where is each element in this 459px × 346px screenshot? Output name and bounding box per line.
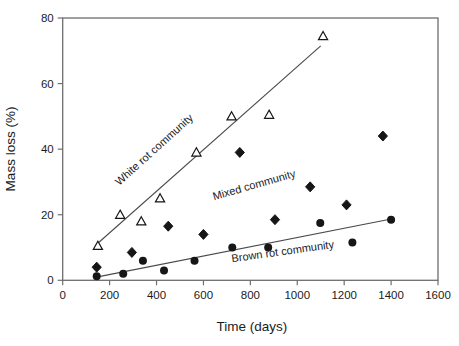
data-point-white-rot-community [137,217,146,225]
data-point-brown-rot-community [191,257,199,265]
data-point-brown-rot-community [160,266,168,274]
data-point-white-rot-community [155,194,164,202]
data-point-mixed-community [199,229,208,239]
data-point-brown-rot-community [119,270,127,278]
x-tick-label: 1200 [331,289,357,301]
y-tick-label: 20 [41,209,54,221]
scatter-plot-canvas: 02004006008001000120014001600020406080Wh… [0,0,459,346]
data-point-white-rot-community [227,112,236,120]
trendline-white-rot-community [97,46,321,244]
y-axis-label: Mass loss (%) [3,107,18,192]
plot-area: 02004006008001000120014001600020406080Wh… [41,12,451,301]
series-label-white-rot-community: White rot community [113,111,196,187]
data-point-white-rot-community [318,31,327,39]
data-point-mixed-community [270,215,279,225]
x-axis-label: Time (days) [217,319,288,334]
x-tick-label: 800 [241,289,260,301]
data-point-mixed-community [127,247,136,257]
x-tick-label: 1400 [378,289,404,301]
y-tick-label: 40 [41,143,54,155]
scatter-plot-figure: 02004006008001000120014001600020406080Wh… [0,0,459,346]
data-point-mixed-community [378,131,387,141]
x-tick-label: 400 [147,289,166,301]
data-point-brown-rot-community [228,244,236,252]
data-point-white-rot-community [116,210,125,218]
series-label-brown-rot-community: Brown rot community [231,238,335,264]
data-point-white-rot-community [265,110,274,118]
plot-frame [63,18,438,280]
data-point-mixed-community [306,182,315,192]
data-point-mixed-community [342,200,351,210]
data-point-brown-rot-community [316,219,324,227]
data-point-mixed-community [164,221,173,231]
y-tick-label: 0 [47,274,53,286]
x-tick-label: 0 [59,289,65,301]
x-tick-label: 1600 [425,289,451,301]
y-tick-label: 60 [41,78,54,90]
series-label-mixed-community: Mixed community [211,167,297,202]
y-tick-label: 80 [41,12,54,24]
data-point-brown-rot-community [387,216,395,224]
data-point-brown-rot-community [348,239,356,247]
x-tick-label: 1000 [284,289,310,301]
data-point-brown-rot-community [93,272,101,280]
data-point-white-rot-community [93,241,102,249]
x-tick-label: 200 [100,289,119,301]
data-point-brown-rot-community [139,257,147,265]
x-tick-label: 600 [194,289,213,301]
data-point-mixed-community [235,147,244,157]
trendline-brown-rot-community [100,219,390,276]
data-point-mixed-community [92,262,101,272]
data-point-white-rot-community [192,148,201,156]
